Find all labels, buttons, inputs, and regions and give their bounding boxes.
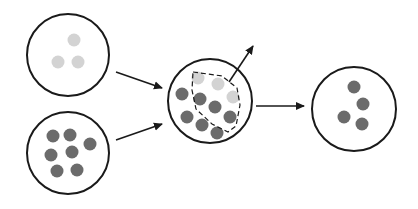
dark-dot xyxy=(338,111,351,124)
arrows-group xyxy=(116,46,304,140)
set-source-light xyxy=(27,14,109,96)
set-circle-outline xyxy=(168,59,252,143)
dark-dot xyxy=(84,138,97,151)
dark-dot xyxy=(196,119,209,132)
arrow-dark-to-combined xyxy=(116,124,162,140)
dark-dot xyxy=(47,130,60,143)
dark-dot xyxy=(45,149,58,162)
light-dot xyxy=(52,56,65,69)
dark-dot xyxy=(64,129,77,142)
dark-dot xyxy=(51,165,64,178)
set-circle-outline xyxy=(27,14,109,96)
light-dot xyxy=(212,78,225,91)
dark-dot xyxy=(356,118,369,131)
set-circle-outline xyxy=(312,67,396,151)
dark-dot xyxy=(209,101,222,114)
dark-dot xyxy=(357,98,370,111)
dark-dot xyxy=(194,93,207,106)
dark-dot xyxy=(224,111,237,124)
dark-dot xyxy=(66,146,79,159)
circles-group xyxy=(27,14,396,194)
set-source-dark xyxy=(27,112,109,194)
set-combined xyxy=(168,59,252,143)
flow-diagram xyxy=(0,0,418,209)
dark-dot xyxy=(176,88,189,101)
set-result xyxy=(312,67,396,151)
arrow-subset-exit xyxy=(229,46,253,82)
diagram-canvas xyxy=(0,0,418,209)
light-dot xyxy=(72,56,85,69)
arrow-light-to-combined xyxy=(116,72,162,88)
dark-dot xyxy=(71,164,84,177)
light-dot xyxy=(68,34,81,47)
dark-dot xyxy=(181,111,194,124)
dark-dot xyxy=(348,81,361,94)
